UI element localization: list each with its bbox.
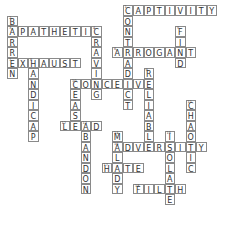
crossword-cell[interactable]: S	[165, 142, 176, 153]
crossword-cell[interactable]: I	[186, 152, 197, 163]
crossword-cell[interactable]: V	[175, 5, 186, 16]
crossword-cell[interactable]: I	[175, 142, 186, 153]
crossword-cell[interactable]: 8H	[28, 58, 39, 69]
crossword-cell[interactable]: I	[28, 100, 39, 111]
crossword-cell[interactable]: N	[81, 184, 92, 195]
crossword-cell[interactable]: I	[175, 37, 186, 48]
crossword-cell[interactable]: S	[60, 58, 71, 69]
crossword-cell[interactable]: A	[165, 47, 176, 58]
crossword-cell[interactable]: O	[165, 152, 176, 163]
crossword-cell[interactable]: 1C	[123, 5, 134, 16]
crossword-cell[interactable]: T	[123, 163, 134, 174]
crossword-cell[interactable]: L	[144, 89, 155, 100]
crossword-cell[interactable]: S	[70, 110, 81, 121]
crossword-cell[interactable]: 14M	[112, 131, 123, 142]
crossword-cell[interactable]: A	[186, 121, 197, 132]
crossword-cell[interactable]: 9R	[144, 68, 155, 79]
crossword-cell[interactable]: E	[60, 26, 71, 37]
crossword-cell[interactable]: B	[81, 131, 92, 142]
crossword-cell[interactable]: A	[123, 58, 134, 69]
crossword-cell[interactable]: D	[112, 173, 123, 184]
crossword-cell[interactable]: T	[186, 142, 197, 153]
crossword-cell[interactable]: A	[91, 47, 102, 58]
crossword-cell[interactable]: C	[102, 79, 113, 90]
crossword-cell[interactable]: P	[28, 131, 39, 142]
crossword-cell[interactable]: R	[154, 142, 165, 153]
crossword-cell[interactable]: I	[165, 5, 176, 16]
crossword-cell[interactable]: R	[91, 37, 102, 48]
crossword-cell[interactable]: A	[112, 163, 123, 174]
crossword-cell[interactable]: D	[81, 163, 92, 174]
crossword-cell[interactable]: 15I	[165, 131, 176, 142]
crossword-cell[interactable]: I	[123, 79, 134, 90]
crossword-cell[interactable]: Y	[196, 142, 207, 153]
crossword-cell[interactable]: O	[186, 131, 197, 142]
crossword-cell[interactable]: A	[144, 110, 155, 121]
crossword-cell[interactable]: T	[196, 5, 207, 16]
crossword-cell[interactable]: P	[18, 26, 29, 37]
crossword-cell[interactable]: G	[91, 89, 102, 100]
crossword-cell[interactable]: Y	[112, 184, 123, 195]
crossword-cell[interactable]: P	[144, 5, 155, 16]
crossword-cell[interactable]: I	[144, 184, 155, 195]
crossword-cell[interactable]: B	[144, 121, 155, 132]
crossword-cell[interactable]: N	[28, 79, 39, 90]
crossword-cell[interactable]: O	[123, 16, 134, 27]
crossword-cell[interactable]: T	[123, 37, 134, 48]
crossword-cell[interactable]: T	[39, 26, 50, 37]
crossword-cell[interactable]: E	[112, 79, 123, 90]
crossword-cell[interactable]: O	[81, 173, 92, 184]
crossword-cell[interactable]: L	[154, 184, 165, 195]
crossword-cell[interactable]: 3A	[7, 26, 18, 37]
crossword-cell[interactable]: I	[144, 100, 155, 111]
crossword-cell[interactable]: T	[154, 5, 165, 16]
crossword-cell[interactable]: 10C	[70, 79, 81, 90]
crossword-cell[interactable]: T	[186, 47, 197, 58]
crossword-cell[interactable]: A	[39, 58, 50, 69]
crossword-cell[interactable]: H	[186, 110, 197, 121]
crossword-cell[interactable]: T	[123, 100, 134, 111]
crossword-cell[interactable]: N	[7, 68, 18, 79]
crossword-cell[interactable]: T	[70, 58, 81, 69]
crossword-cell[interactable]: N	[175, 47, 186, 58]
crossword-cell[interactable]: C	[186, 163, 197, 174]
crossword-cell[interactable]: A	[70, 100, 81, 111]
crossword-cell[interactable]: 18F	[133, 184, 144, 195]
crossword-cell[interactable]: G	[154, 47, 165, 58]
crossword-cell[interactable]: H	[49, 26, 60, 37]
crossword-cell[interactable]: A	[28, 68, 39, 79]
crossword-cell[interactable]: D	[175, 58, 186, 69]
crossword-cell[interactable]: 16A	[112, 142, 123, 153]
crossword-cell[interactable]: 5F	[175, 26, 186, 37]
crossword-cell[interactable]: A	[81, 142, 92, 153]
crossword-cell[interactable]: E	[144, 142, 155, 153]
crossword-cell[interactable]: X	[18, 58, 29, 69]
crossword-cell[interactable]: 7E	[7, 58, 18, 69]
crossword-cell[interactable]: R	[7, 47, 18, 58]
crossword-cell[interactable]: Y	[207, 5, 218, 16]
crossword-cell[interactable]: V	[133, 79, 144, 90]
crossword-cell[interactable]: E	[165, 194, 176, 205]
crossword-cell[interactable]: L	[144, 131, 155, 142]
crossword-cell[interactable]: E	[70, 89, 81, 100]
crossword-cell[interactable]: U	[49, 58, 60, 69]
crossword-cell[interactable]: 4C	[91, 26, 102, 37]
crossword-cell[interactable]: O	[144, 47, 155, 58]
crossword-cell[interactable]: C	[123, 89, 134, 100]
crossword-cell[interactable]: R	[7, 37, 18, 48]
crossword-cell[interactable]: D	[123, 142, 134, 153]
crossword-cell[interactable]: A	[165, 173, 176, 184]
crossword-cell[interactable]: T	[70, 26, 81, 37]
crossword-cell[interactable]: T	[165, 184, 176, 195]
crossword-cell[interactable]: 2B	[7, 16, 18, 27]
crossword-cell[interactable]: N	[81, 152, 92, 163]
crossword-cell[interactable]: 13A	[81, 121, 92, 132]
crossword-cell[interactable]: A	[133, 5, 144, 16]
crossword-cell[interactable]: R	[123, 47, 134, 58]
crossword-cell[interactable]: V	[133, 142, 144, 153]
crossword-cell[interactable]: 12L	[60, 121, 71, 132]
crossword-cell[interactable]: 6A	[112, 47, 123, 58]
crossword-cell[interactable]: V	[91, 58, 102, 69]
crossword-cell[interactable]: E	[133, 163, 144, 174]
crossword-cell[interactable]: D	[28, 89, 39, 100]
